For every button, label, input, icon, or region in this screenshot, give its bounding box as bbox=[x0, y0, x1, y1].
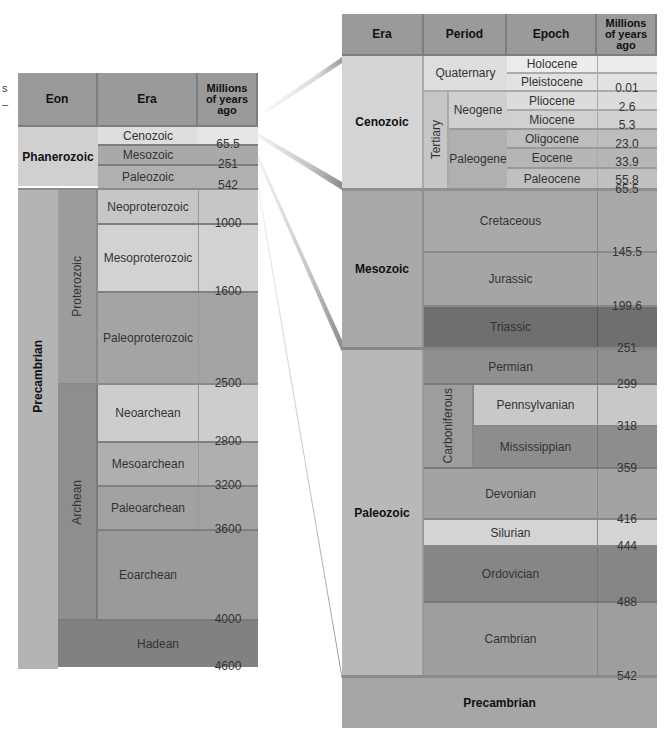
edge-fragment: – bbox=[2, 98, 8, 110]
epoch-miocene: Miocene bbox=[507, 111, 597, 128]
epoch-eocene: Eocene bbox=[507, 149, 597, 167]
header-era: Era bbox=[342, 14, 424, 56]
age-label: 2800 bbox=[198, 434, 258, 448]
period-silurian: Silurian bbox=[424, 520, 597, 545]
header-period: Period bbox=[424, 14, 507, 56]
era-cenozoic: Cenozoic bbox=[98, 127, 198, 144]
age-label: 318 bbox=[597, 419, 657, 433]
age-label: 542 bbox=[597, 669, 657, 683]
age-label: 542 bbox=[198, 178, 258, 192]
header-era: Era bbox=[98, 73, 198, 127]
era-paleozoic: Paleozoic bbox=[342, 350, 424, 675]
period-cretaceous: Cretaceous bbox=[424, 191, 597, 251]
age-label: 488 bbox=[597, 595, 657, 609]
age-label: 359 bbox=[597, 461, 657, 475]
era-mesozoic: Mesozoic bbox=[342, 191, 424, 347]
period-neogene: Neogene bbox=[449, 92, 507, 128]
era-mesoproterozoic: Mesoproterozoic bbox=[98, 225, 198, 291]
era-neoproterozoic: Neoproterozoic bbox=[98, 190, 198, 223]
age-label: 444 bbox=[597, 539, 657, 553]
subperiod-pennsylvanian: Pennsylvanian bbox=[474, 385, 597, 425]
header-epoch: Epoch bbox=[507, 14, 597, 56]
eon-archean: Archean bbox=[58, 385, 98, 619]
age-label: 1600 bbox=[198, 284, 258, 298]
header-millions-years: Millions of years ago bbox=[597, 14, 657, 56]
period-ordovician: Ordovician bbox=[424, 547, 597, 601]
eon-precambrian: Precambrian bbox=[18, 190, 58, 669]
age-label: 3200 bbox=[198, 478, 258, 492]
age-label: 299 bbox=[597, 377, 657, 391]
era-paleoarchean: Paleoarchean bbox=[98, 487, 198, 529]
age-label: 5.3 bbox=[597, 118, 657, 132]
header-eon: Eon bbox=[18, 73, 98, 127]
period-quaternary: Quaternary bbox=[424, 56, 507, 90]
age-label: 251 bbox=[597, 341, 657, 355]
header-millions-years: Millions of years ago bbox=[198, 73, 258, 127]
period-devonian: Devonian bbox=[424, 469, 597, 518]
age-label: 199.6 bbox=[597, 299, 657, 313]
era-mesoarchean: Mesoarchean bbox=[98, 443, 198, 485]
era-period-epoch-table: Era Period Epoch Millions of years ago C… bbox=[342, 14, 657, 728]
period-permian: Permian bbox=[424, 350, 597, 383]
epoch-oligocene: Oligocene bbox=[507, 130, 597, 147]
age-label: 2.6 bbox=[597, 100, 657, 114]
era-cenozoic: Cenozoic bbox=[342, 56, 424, 188]
age-label: 145.5 bbox=[597, 245, 657, 259]
period-paleogene: Paleogene bbox=[449, 130, 507, 188]
age-label: 4600 bbox=[198, 659, 258, 673]
age-label: 251 bbox=[198, 157, 258, 171]
epoch-holocene: Holocene bbox=[507, 56, 597, 72]
age-label: 2500 bbox=[198, 376, 258, 390]
age-label: 1000 bbox=[198, 216, 258, 230]
era-paleoproterozoic: Paleoproterozoic bbox=[98, 293, 198, 383]
eon-proterozoic: Proterozoic bbox=[58, 190, 98, 383]
period-tertiary: Tertiary bbox=[424, 92, 449, 188]
eon-era-table: Eon Era Millions of years ago Phanerozoi… bbox=[18, 73, 258, 669]
age-label: 416 bbox=[597, 512, 657, 526]
period-jurassic: Jurassic bbox=[424, 253, 597, 305]
age-label: 4000 bbox=[198, 612, 258, 626]
subperiod-mississippian: Mississippian bbox=[474, 427, 597, 467]
period-triassic: Triassic bbox=[424, 307, 597, 347]
eon-phanerozoic: Phanerozoic bbox=[18, 127, 98, 186]
epoch-pliocene: Pliocene bbox=[507, 92, 597, 109]
era-mesozoic: Mesozoic bbox=[98, 146, 198, 164]
edge-fragment: s bbox=[2, 82, 8, 94]
eon-precambrian: Precambrian bbox=[342, 678, 657, 728]
age-label: 0.01 bbox=[597, 81, 657, 95]
epoch-paleocene: Paleocene bbox=[507, 169, 597, 188]
era-neoarchean: Neoarchean bbox=[98, 385, 198, 441]
age-label: 33.9 bbox=[597, 155, 657, 169]
era-paleozoic: Paleozoic bbox=[98, 166, 198, 188]
period-cambrian: Cambrian bbox=[424, 603, 597, 675]
age-label: 65.5 bbox=[597, 182, 657, 196]
age-label: 65.5 bbox=[198, 137, 258, 151]
epoch-pleistocene: Pleistocene bbox=[507, 74, 597, 90]
age-label: 23.0 bbox=[597, 137, 657, 151]
age-label: 3600 bbox=[198, 522, 258, 536]
era-eoarchean: Eoarchean bbox=[98, 531, 198, 619]
period-carboniferous: Carboniferous bbox=[424, 385, 474, 467]
